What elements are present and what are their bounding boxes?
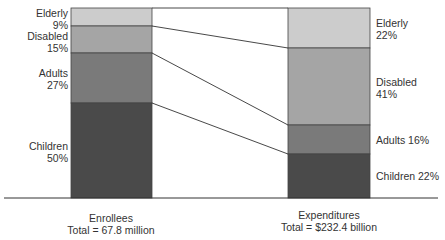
caption-enrollees: Enrollees Total = 67.8 million <box>51 212 171 236</box>
connector-adults-children <box>152 103 288 154</box>
label-name: Elderly <box>36 7 68 19</box>
label-pct: 41% <box>376 88 417 100</box>
segment-enrollees-elderly <box>71 8 152 26</box>
caption-total: Total = $232.4 billion <box>264 221 394 233</box>
label-name: Adults <box>39 67 68 79</box>
segment-enrollees-children <box>71 103 152 198</box>
connector-elderly-disabled <box>152 26 288 48</box>
segment-expenditures-elderly <box>288 8 370 48</box>
bar-enrollees <box>71 8 152 198</box>
stacked-bar-chart: Elderly 9% Disabled 15% Adults 27% Child… <box>0 0 445 240</box>
label-enrollees-adults: Adults 27% <box>39 67 68 91</box>
caption-title: Expenditures <box>264 209 394 221</box>
label-enrollees-elderly: Elderly 9% <box>36 7 68 31</box>
label-enrollees-children: Children 50% <box>29 140 68 164</box>
label-name: Disabled <box>27 30 68 42</box>
connector-lines <box>152 8 288 154</box>
segment-enrollees-adults <box>71 53 152 103</box>
segment-expenditures-children <box>288 154 370 198</box>
caption-total: Total = 67.8 million <box>51 224 171 236</box>
caption-expenditures: Expenditures Total = $232.4 billion <box>264 209 394 233</box>
segment-expenditures-adults <box>288 125 370 154</box>
bar-expenditures <box>288 8 370 198</box>
label-expenditures-children: Children 22% <box>376 170 439 182</box>
label-name: Elderly <box>376 17 408 29</box>
segment-expenditures-disabled <box>288 48 370 125</box>
label-pct: 50% <box>29 152 68 164</box>
label-expenditures-disabled: Disabled 41% <box>376 76 417 100</box>
segment-enrollees-disabled <box>71 26 152 53</box>
label-pct: 15% <box>27 42 68 54</box>
label-name: Children <box>29 140 68 152</box>
label-pct: 22% <box>376 29 408 41</box>
label-name: Disabled <box>376 76 417 88</box>
label-pct: 27% <box>39 79 68 91</box>
caption-title: Enrollees <box>51 212 171 224</box>
label-expenditures-elderly: Elderly 22% <box>376 17 408 41</box>
label-enrollees-disabled: Disabled 15% <box>27 30 68 54</box>
label-expenditures-adults: Adults 16% <box>376 134 429 146</box>
connector-disabled-adults <box>152 53 288 125</box>
